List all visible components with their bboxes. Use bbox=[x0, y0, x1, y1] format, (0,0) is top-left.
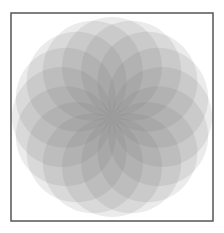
rosette-circle bbox=[108, 48, 208, 148]
circle-rosette bbox=[12, 17, 212, 217]
rosette-figure bbox=[0, 0, 224, 233]
figure-canvas bbox=[0, 0, 224, 233]
